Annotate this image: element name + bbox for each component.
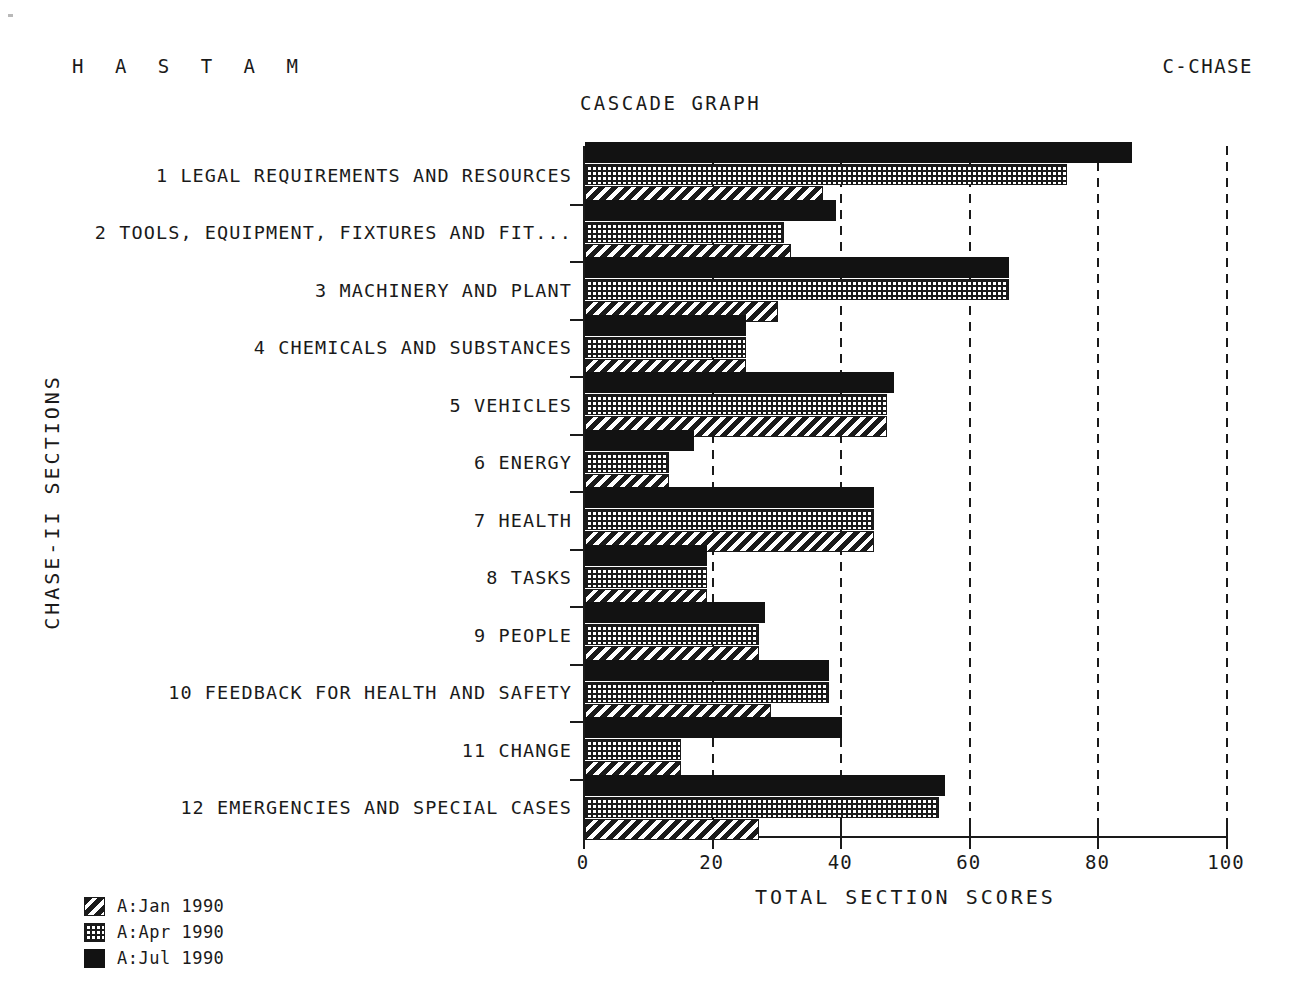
category-label: 7 HEALTH [52,509,572,530]
legend-label-apr: A:Apr 1990 [117,922,224,942]
cascade-graph-screen: H A S T A M C-CHASE CASCADE GRAPH 020406… [0,0,1311,1006]
bar [585,717,842,738]
bar [585,164,1067,185]
x-tick-label: 20 [699,851,724,873]
legend-label-jul: A:Jul 1990 [117,948,224,968]
gridline [1226,146,1228,836]
x-tick [840,836,842,849]
bar [585,487,874,508]
bar [585,660,829,681]
y-tick [570,376,584,378]
bar [585,819,759,840]
x-tick [1226,825,1228,837]
bar [585,775,945,796]
bar [585,624,759,645]
legend-item-jul: A:Jul 1990 [84,945,224,971]
category-label: 2 TOOLS, EQUIPMENT, FIXTURES AND FIT... [52,222,572,243]
x-tick [969,825,971,837]
legend-swatch-jan-icon [84,897,105,916]
category-label: 4 CHEMICALS AND SUBSTANCES [52,337,572,358]
bar [585,567,707,588]
bar [585,797,939,818]
bar [585,602,765,623]
gridline [1097,146,1099,836]
category-label: 6 ENERGY [52,452,572,473]
bar [585,372,894,393]
y-tick [570,664,584,666]
y-tick [570,491,584,493]
category-label: 5 VEHICLES [52,394,572,415]
chart-title: CASCADE GRAPH [15,92,1311,114]
x-tick-label: 40 [828,851,853,873]
y-tick [570,261,584,263]
bar [585,257,1009,278]
category-label: 11 CHANGE [52,739,572,760]
bar [585,200,836,221]
bar [585,142,1132,163]
bar [585,545,707,566]
category-label: 10 FEEDBACK FOR HEALTH AND SAFETY [52,682,572,703]
bar [585,509,874,530]
x-tick [969,836,971,849]
bar [585,315,746,336]
x-tick-label: 0 [577,851,589,873]
x-tick [840,825,842,837]
y-axis-title: CHASE-II SECTIONS [40,372,64,632]
bar [585,682,829,703]
gridline [969,146,971,836]
legend-item-jan: A:Jan 1990 [84,893,224,919]
category-label: 12 EMERGENCIES AND SPECIAL CASES [52,797,572,818]
scan-artifact [8,14,13,17]
y-tick [570,721,584,723]
y-tick [570,434,584,436]
y-tick [570,319,584,321]
x-tick [1097,836,1099,849]
legend: A:Jan 1990 A:Apr 1990 A:Jul 1990 [84,893,224,971]
category-label: 9 PEOPLE [52,624,572,645]
legend-swatch-apr-icon [84,923,105,942]
x-axis-title: TOTAL SECTION SCORES [583,885,1228,909]
y-tick [570,606,584,608]
legend-swatch-jul-icon [84,949,105,968]
y-tick [570,204,584,206]
bar [585,739,681,760]
bar [585,222,784,243]
application-name: H A S T A M [72,55,308,77]
legend-label-jan: A:Jan 1990 [117,896,224,916]
bar [585,430,694,451]
category-label: 8 TASKS [52,567,572,588]
legend-item-apr: A:Apr 1990 [84,919,224,945]
y-tick [570,549,584,551]
x-tick-label: 60 [956,851,981,873]
category-label: 3 MACHINERY AND PLANT [52,279,572,300]
x-tick-label: 80 [1085,851,1110,873]
x-tick-label: 100 [1207,851,1244,873]
x-tick [1226,836,1228,849]
x-tick [1097,825,1099,837]
category-label: 1 LEGAL REQUIREMENTS AND RESOURCES [52,164,572,185]
bar [585,279,1009,300]
bar [585,337,746,358]
y-tick [570,779,584,781]
bar [585,394,887,415]
screen-code: C-CHASE [1162,55,1253,77]
bar [585,452,669,473]
